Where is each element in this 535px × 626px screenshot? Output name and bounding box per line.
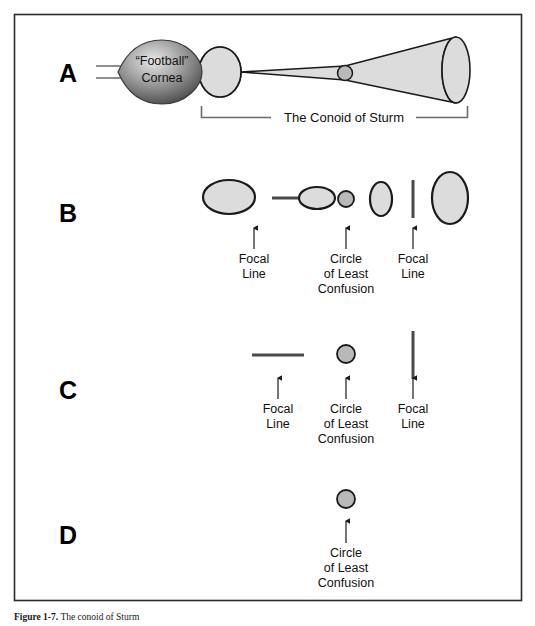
annotation-label-line: of Least bbox=[324, 417, 369, 431]
circle-of-least-confusion bbox=[337, 490, 355, 508]
row-label-b: B bbox=[59, 199, 77, 227]
conoid-of-sturm-diagram: A “Football” Cornea The Conoid o bbox=[0, 0, 535, 626]
blur-ellipse-vertical-large bbox=[432, 172, 468, 224]
annotation-label-line: of Least bbox=[324, 267, 369, 281]
figure-caption: Figure 1-7. The conoid of Sturm bbox=[14, 612, 139, 622]
annotation-label-line: Focal bbox=[398, 402, 429, 416]
circle-of-least-confusion bbox=[338, 191, 354, 207]
figure-caption-body: The conoid of Sturm bbox=[60, 612, 139, 622]
blur-ellipse-horizontal-large bbox=[203, 180, 255, 214]
annotation-label-line: Circle bbox=[330, 252, 362, 266]
annotation-label-line: Focal bbox=[239, 252, 270, 266]
figure-caption-title: Figure 1-7. bbox=[14, 612, 58, 622]
annotation-label-line: Focal bbox=[263, 402, 294, 416]
conoid-waist-circle bbox=[338, 66, 353, 81]
row-label-d: D bbox=[59, 521, 77, 549]
annotation-label-line: Line bbox=[266, 417, 290, 431]
figure-border bbox=[15, 15, 522, 601]
row-label-c: C bbox=[59, 376, 77, 404]
annotation-label-line: Focal bbox=[398, 252, 429, 266]
bracket-label-conoid-of-sturm: The Conoid of Sturm bbox=[284, 110, 404, 125]
cornea-label-line2: Cornea bbox=[142, 71, 183, 85]
annotation-label-line: Line bbox=[401, 267, 425, 281]
annotation-label-line: Circle bbox=[330, 546, 362, 560]
figure-container: A “Football” Cornea The Conoid o bbox=[0, 0, 535, 626]
conoid-right-cross-section bbox=[442, 37, 470, 103]
annotation-label-line: Circle bbox=[330, 402, 362, 416]
row-label-a: A bbox=[59, 59, 77, 87]
annotation-label-line: Confusion bbox=[318, 432, 374, 446]
conoid-left-cross-section bbox=[199, 47, 241, 97]
annotation-label-line: of Least bbox=[324, 561, 369, 575]
cornea-label-line1: “Football” bbox=[136, 54, 189, 68]
annotation-label-line: Line bbox=[401, 417, 425, 431]
circle-of-least-confusion bbox=[337, 345, 355, 363]
blur-ellipse-horizontal-small bbox=[299, 187, 335, 209]
blur-ellipse-vertical-small bbox=[370, 182, 392, 216]
annotation-label-line: Confusion bbox=[318, 282, 374, 296]
annotation-label-line: Line bbox=[242, 267, 266, 281]
annotation-label-line: Confusion bbox=[318, 576, 374, 590]
